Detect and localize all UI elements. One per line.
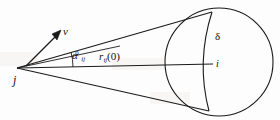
terminator-arc bbox=[203, 12, 212, 111]
center-axis-line bbox=[17, 64, 213, 68]
radius-argument: (0) bbox=[107, 50, 120, 62]
angle-subscript: ij bbox=[81, 55, 85, 62]
sphere-outline bbox=[165, 8, 273, 116]
label-target-i: i bbox=[216, 59, 219, 69]
diagram-canvas bbox=[0, 0, 280, 120]
radius-subscript: ij bbox=[103, 56, 107, 63]
label-apex-j: j bbox=[13, 74, 16, 86]
angle-superscript: 0 bbox=[75, 49, 78, 56]
label-velocity-v: v bbox=[63, 26, 68, 37]
lower-tangent-line bbox=[17, 68, 209, 111]
label-angle-alpha: α0ij bbox=[72, 50, 85, 61]
label-radius-r: rij(0) bbox=[99, 51, 120, 62]
label-delta: δ bbox=[215, 31, 220, 42]
geometry-figure: j v α0ij rij(0) δ i bbox=[0, 0, 280, 120]
